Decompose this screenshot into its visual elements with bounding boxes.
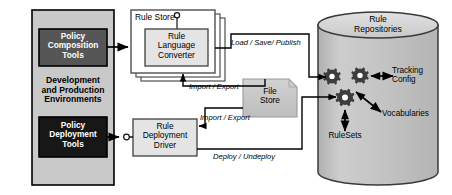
- rule-repositories-cylinder: [318, 12, 438, 185]
- architecture-diagram: Policy Composition Tools Development and…: [0, 0, 452, 195]
- rule-language-converter-box: [145, 29, 208, 66]
- rule-deployment-driver-box: [133, 119, 197, 156]
- edge-load-save-publish: [215, 34, 326, 77]
- diagram-canvas: [0, 0, 452, 195]
- policy-composition-tools-box: [39, 29, 107, 66]
- policy-deployment-tools-box: [39, 117, 107, 157]
- file-store-shape: [243, 79, 297, 117]
- edge-import-export-bottom: [199, 108, 243, 126]
